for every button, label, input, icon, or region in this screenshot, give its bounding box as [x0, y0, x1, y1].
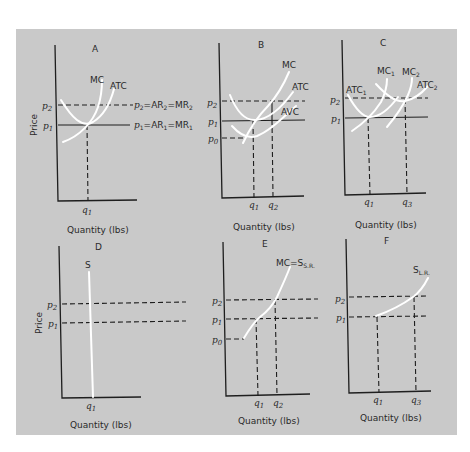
panel-e-p1-tick: p1	[212, 315, 222, 327]
panel-e-x-label: Quantity (lbs)	[238, 416, 300, 426]
panel-d-p2-line	[62, 302, 186, 304]
panel-b-q2-tick: q2	[268, 200, 279, 212]
panel-e: E MC=SS.R. p2 p1 p0 q1 q2 Quantity (lbs)	[212, 239, 318, 426]
panel-c-q3-line	[405, 99, 407, 194]
panel-e-p2-line	[226, 299, 318, 300]
panel-c-mc1-label: MC1	[377, 66, 395, 77]
panel-c-p1-tick: p1	[331, 114, 341, 126]
panel-b-p2-tick: p2	[207, 98, 218, 110]
panel-a-p1-line-label: p1=AR1=MR1	[134, 120, 193, 131]
panel-b-p1-tick: p1	[208, 117, 218, 129]
panel-a-p2-line-label: p2=AR2=MR2	[134, 100, 193, 111]
panel-c: C ATC1 MC1 MC2 ATC2 p2 p1 q1 q3 Quantity…	[330, 38, 438, 230]
panel-f-x-label: Quantity (lbs)	[360, 413, 422, 423]
panel-f-q3-line	[414, 297, 416, 392]
panel-b-p1-line	[222, 120, 305, 121]
panel-e-p2-tick: p2	[212, 296, 223, 308]
panel-b-avc-label: AVC	[281, 107, 299, 117]
panel-e-q1-line	[256, 319, 258, 396]
panel-f-title: F	[384, 236, 389, 246]
panel-d-p2-tick: p2	[47, 300, 58, 312]
panel-b-q1-line	[253, 121, 254, 198]
panel-f-q3-tick: q3	[411, 395, 422, 407]
panel-d-y-label: Price	[34, 312, 44, 334]
panel-c-p2-tick: p2	[330, 95, 341, 107]
panel-f-p1-line	[349, 316, 427, 317]
panel-f-p1-tick: p1	[336, 313, 346, 325]
panel-a-mc-label: MC	[90, 75, 104, 85]
panel-e-p0-tick: p0	[212, 335, 223, 347]
panel-d-p1-tick: p1	[48, 319, 58, 331]
panel-b-mc-label: MC	[282, 60, 296, 70]
panel-e-mc-supply-curve	[244, 267, 290, 338]
panel-f-q1-line	[377, 317, 379, 393]
panel-b-p0-tick: p0	[208, 134, 219, 146]
panel-d-s-curve	[89, 272, 93, 397]
panel-d-p1-line	[62, 321, 186, 323]
panel-c-q1-tick: q1	[364, 197, 374, 209]
panel-d-q1-tick: q1	[86, 401, 96, 413]
panel-a-p2-tick: p2	[42, 101, 53, 113]
panel-e-q2-tick: q2	[273, 398, 284, 410]
panel-c-title: C	[380, 38, 386, 48]
panel-a-atc-label: ATC	[110, 81, 127, 91]
panel-c-atc2-label: ATC2	[417, 80, 438, 91]
panel-b-x-label: Quantity (lbs)	[233, 222, 295, 232]
panel-c-x-label: Quantity (lbs)	[355, 220, 417, 230]
panel-b-atc-label: ATC	[292, 82, 309, 92]
panel-c-atc1-label: ATC1	[346, 85, 367, 96]
panel-a-q1-tick: q1	[82, 205, 92, 217]
panel-e-q2-line	[275, 300, 277, 395]
panel-e-p1-line	[226, 318, 318, 319]
panel-e-mc-label: MC=SS.R.	[276, 258, 315, 269]
panel-d-x-label: Quantity (lbs)	[70, 420, 132, 430]
panel-a-atc-curve	[61, 89, 114, 124]
panel-f-s-label: SL.R.	[413, 265, 430, 276]
panel-a-title: A	[92, 44, 99, 54]
panel-f-axes	[346, 239, 431, 393]
panel-f-p2-tick: p2	[335, 294, 346, 306]
panel-d: D S p2 p1 q1 Price Quantity (lbs)	[34, 242, 186, 430]
panel-f-q1-tick: q1	[373, 395, 383, 407]
panel-c-q1-line	[368, 118, 370, 195]
panel-c-q3-tick: q3	[402, 197, 413, 209]
economics-diagram: A MC ATC p2 p1 q1 p2=AR2=MR2 p1=AR1=MR1 …	[0, 0, 470, 452]
panel-a-x-label: Quantity (lbs)	[67, 225, 129, 235]
panel-a-axes	[55, 45, 137, 201]
panel-b-title: B	[258, 40, 264, 50]
panel-c-p1-line	[345, 117, 428, 118]
panel-c-mc2-curve	[387, 78, 412, 127]
panel-b: B MC ATC AVC p2 p1 p0 q1 q2 Quantity (lb…	[207, 40, 309, 232]
panel-e-q1-tick: q1	[254, 398, 264, 410]
panel-a-p1-tick: p1	[43, 121, 53, 133]
panel-e-title: E	[262, 239, 268, 249]
panel-d-title: D	[95, 242, 102, 252]
panel-a-q1-line	[87, 125, 88, 201]
panel-b-q1-tick: q1	[249, 200, 259, 212]
panel-d-s-label: S	[85, 260, 91, 270]
panel-a-y-label: Price	[29, 114, 39, 136]
panel-a: A MC ATC p2 p1 q1 p2=AR2=MR2 p1=AR1=MR1 …	[29, 44, 193, 235]
panel-f: F SL.R. p2 p1 q1 q3 Quantity (lbs)	[335, 236, 431, 423]
panel-c-mc2-label: MC2	[402, 67, 420, 78]
panel-b-q2-line	[272, 120, 273, 197]
